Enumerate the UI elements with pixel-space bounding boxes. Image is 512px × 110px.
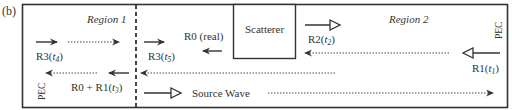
region-1-title: Region 1 xyxy=(86,13,126,25)
r3-t5-label: R3(t5) xyxy=(148,50,175,64)
source-wave-label: Source Wave xyxy=(192,87,250,99)
pec-right-label: PEC xyxy=(494,22,504,39)
r0-real-label: R0 (real) xyxy=(184,30,224,43)
r2-t2-label: R2(t2) xyxy=(308,33,335,47)
panel-label: (b) xyxy=(2,4,16,18)
region-2-title: Region 2 xyxy=(388,13,429,25)
r1-t1-label: R1(t1) xyxy=(472,62,499,76)
pec-left-label: PEC xyxy=(37,83,47,100)
wave-diagram: (b) Region 1 Region 2 Scatterer PEC PEC … xyxy=(0,0,512,110)
scatterer-label: Scatterer xyxy=(245,23,284,35)
r0-r1-t3-label: R0 + R1(t3) xyxy=(71,81,123,95)
r3-t4-label: R3(t4) xyxy=(36,50,63,64)
